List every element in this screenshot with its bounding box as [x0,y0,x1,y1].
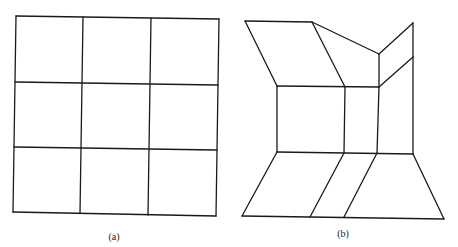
grid-line [413,154,444,219]
figure-a-regular-grid [13,16,219,216]
grid-line [312,22,345,87]
caption-a: (a) [108,231,119,242]
grid-line [242,152,277,216]
grid-line [379,23,413,54]
grid-line [14,147,217,150]
diagram-canvas [0,0,458,247]
caption-b: (b) [337,228,349,239]
grid-line [148,18,151,215]
grid-line [277,86,379,87]
grid-line [277,152,413,154]
figure-b-distorted-grid [242,21,444,219]
grid-line [13,212,216,216]
grid-line [16,16,219,19]
grid-line [379,57,413,87]
grid-line [242,216,444,219]
grid-line [15,82,218,85]
grid-line [377,87,379,153]
grid-line [344,153,377,217]
grid-line [13,16,16,212]
grid-line [310,153,344,217]
grid-line [344,87,345,153]
grid-line [80,17,83,213]
grid-line [245,21,277,86]
grid-line [312,22,379,54]
grid-line [216,19,219,216]
grid-line [245,21,312,22]
